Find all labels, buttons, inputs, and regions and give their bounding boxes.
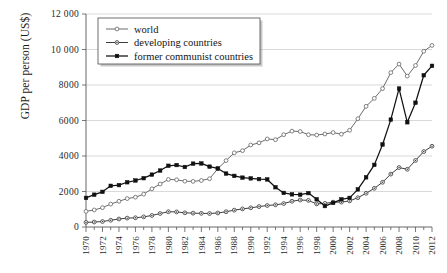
line-chart-plot: 0200040006000800010 00012 000 1970197219… bbox=[0, 0, 447, 273]
x-tick-label: 1998 bbox=[312, 236, 322, 255]
data-point-marker-center bbox=[390, 173, 392, 175]
series-line bbox=[86, 45, 432, 211]
data-point-marker-center bbox=[316, 203, 318, 205]
data-point-marker bbox=[167, 164, 171, 168]
data-point-marker bbox=[142, 176, 146, 180]
data-point-marker-center bbox=[374, 188, 376, 190]
data-point-marker bbox=[290, 193, 294, 197]
data-point-marker-center bbox=[135, 217, 137, 219]
series-line bbox=[86, 146, 432, 222]
data-point-marker-center bbox=[299, 199, 301, 201]
data-point-marker-center bbox=[407, 169, 409, 171]
x-tick-label: 1970 bbox=[81, 236, 91, 255]
data-point-marker-center bbox=[250, 207, 252, 209]
x-tick-label: 1980 bbox=[164, 236, 174, 255]
data-point-marker bbox=[158, 169, 162, 173]
data-point-marker bbox=[191, 162, 195, 166]
data-point-marker bbox=[232, 151, 236, 155]
data-point-marker bbox=[397, 62, 401, 66]
data-point-marker-center bbox=[116, 42, 118, 44]
y-tick-label: 10 000 bbox=[51, 45, 79, 55]
data-point-marker bbox=[241, 176, 245, 180]
data-point-marker bbox=[430, 64, 434, 68]
data-point-marker-center bbox=[192, 212, 194, 214]
data-point-marker bbox=[249, 143, 253, 147]
data-point-marker bbox=[109, 202, 113, 206]
data-point-marker bbox=[257, 177, 261, 181]
y-tick-label: 2000 bbox=[59, 187, 79, 197]
chart-legend: worlddeveloping countriesformer communis… bbox=[98, 18, 263, 67]
data-point-marker bbox=[92, 208, 96, 212]
x-tick-label: 1994 bbox=[279, 236, 289, 255]
data-point-marker bbox=[117, 183, 121, 187]
data-point-marker bbox=[249, 177, 253, 181]
data-point-marker bbox=[364, 176, 368, 180]
data-point-marker bbox=[307, 133, 311, 137]
x-tick-label: 2010 bbox=[411, 236, 421, 255]
x-tick-label: 2004 bbox=[361, 236, 371, 255]
data-point-marker bbox=[323, 132, 327, 136]
data-point-marker-center bbox=[291, 201, 293, 203]
data-point-marker-center bbox=[398, 167, 400, 169]
x-tick-label: 1978 bbox=[147, 236, 157, 255]
data-point-marker bbox=[109, 184, 113, 188]
data-point-marker-center bbox=[118, 218, 120, 220]
data-point-marker bbox=[339, 132, 343, 136]
data-point-marker-center bbox=[143, 216, 145, 218]
x-tick-label: 1996 bbox=[295, 236, 305, 255]
data-point-marker-center bbox=[85, 222, 87, 224]
data-point-marker bbox=[340, 198, 344, 202]
data-point-marker bbox=[175, 163, 179, 167]
data-point-marker bbox=[315, 133, 319, 137]
data-point-marker bbox=[381, 143, 385, 147]
data-point-marker bbox=[290, 129, 294, 133]
data-point-marker bbox=[241, 149, 245, 153]
series-line bbox=[86, 66, 432, 206]
data-point-marker bbox=[381, 87, 385, 91]
data-point-marker-center bbox=[283, 203, 285, 205]
data-point-marker bbox=[348, 128, 352, 132]
x-tick-label: 2008 bbox=[394, 236, 404, 255]
data-point-marker-center bbox=[93, 221, 95, 223]
data-point-marker-center bbox=[151, 215, 153, 217]
data-point-marker bbox=[257, 141, 261, 145]
series-former-communist-countries bbox=[84, 64, 434, 208]
data-point-marker-center bbox=[308, 200, 310, 202]
y-tick-label: 4000 bbox=[59, 151, 79, 161]
data-point-marker-center bbox=[423, 151, 425, 153]
data-point-marker bbox=[298, 193, 302, 197]
x-tick-label: 1992 bbox=[262, 236, 272, 255]
x-tick-label: 1988 bbox=[229, 236, 239, 255]
x-tick-label: 1972 bbox=[98, 236, 108, 255]
data-point-marker-center bbox=[201, 213, 203, 215]
data-point-marker-center bbox=[217, 212, 219, 214]
data-point-marker-center bbox=[266, 205, 268, 207]
data-point-marker bbox=[430, 44, 434, 48]
data-point-marker bbox=[208, 165, 212, 169]
data-point-marker bbox=[298, 130, 302, 134]
x-tick-label: 2002 bbox=[345, 236, 355, 255]
data-point-marker bbox=[200, 162, 204, 166]
data-point-marker bbox=[323, 204, 327, 208]
data-point-marker-center bbox=[242, 208, 244, 210]
data-point-marker bbox=[274, 138, 278, 142]
data-series-group bbox=[84, 44, 434, 225]
data-point-marker bbox=[101, 206, 105, 210]
data-point-marker-center bbox=[184, 212, 186, 214]
data-point-marker-center bbox=[209, 213, 211, 215]
data-point-marker bbox=[183, 179, 187, 183]
legend-label: former communist countries bbox=[134, 51, 253, 62]
data-point-marker bbox=[373, 163, 377, 167]
data-point-marker-center bbox=[126, 217, 128, 219]
data-point-marker bbox=[191, 179, 195, 183]
data-point-marker bbox=[208, 177, 212, 181]
data-point-marker bbox=[125, 197, 129, 201]
data-point-marker bbox=[348, 196, 352, 200]
data-point-marker bbox=[117, 199, 121, 203]
data-point-marker bbox=[216, 167, 220, 171]
data-point-marker bbox=[115, 27, 119, 31]
data-point-marker bbox=[84, 209, 88, 213]
data-point-marker-center bbox=[349, 200, 351, 202]
data-point-marker bbox=[315, 198, 319, 202]
data-point-marker-center bbox=[168, 211, 170, 213]
